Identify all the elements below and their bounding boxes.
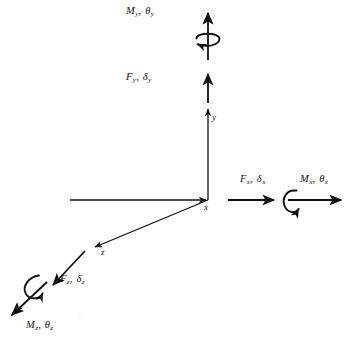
diagram-vector-layer: [0, 0, 347, 341]
force-z-symbol: F: [60, 273, 67, 284]
moment-y-arrow: [204, 12, 213, 60]
moment-x-arrow: [288, 196, 343, 205]
rotation-y-symbol: θ: [145, 5, 150, 16]
moment-z-arrow: [11, 282, 47, 317]
force-y-symbol: F: [126, 71, 133, 82]
displacement-z-symbol: δ: [76, 273, 81, 284]
load-label-force-y: Fy, δy: [126, 72, 152, 84]
load-label-moment-z: Mz, θz: [26, 320, 53, 332]
load-label-moment-y: My, θy: [126, 6, 154, 18]
moment-y-symbol: M: [126, 5, 135, 16]
displacement-y-subscript: y: [148, 76, 152, 84]
axis-label-y: y: [212, 113, 216, 122]
label-separator: ,: [38, 319, 45, 330]
label-separator: ,: [250, 173, 257, 184]
moment-y-subscript: y: [135, 10, 139, 18]
rotation-y-subscript: y: [151, 10, 155, 18]
scan-watermark: e: [78, 306, 85, 323]
force-x-symbol: F: [240, 173, 247, 184]
load-label-force-x: Fx, δx: [240, 174, 266, 186]
axis-label-x: x: [204, 203, 208, 212]
load-label-moment-x: Mx, θx: [300, 174, 328, 186]
rotation-z-subscript: z: [50, 324, 53, 332]
displacement-x-subscript: x: [262, 178, 266, 186]
rotation-x-subscript: x: [325, 178, 329, 186]
axis-z: [95, 200, 208, 247]
moment-x-symbol: M: [300, 173, 309, 184]
label-separator: ,: [136, 71, 143, 82]
figure-canvas: x y z My, θy Fy, δy Fx, δx Mx, θx Fz, δz…: [0, 0, 347, 341]
moment-x-curl-icon: [284, 190, 299, 212]
rotation-x-symbol: θ: [319, 173, 324, 184]
moment-z-symbol: M: [26, 319, 35, 330]
displacement-z-subscript: z: [82, 278, 85, 286]
axis-label-z: z: [101, 248, 105, 257]
moment-x-subscript: x: [309, 178, 313, 186]
load-label-force-z: Fz, δz: [60, 274, 85, 286]
